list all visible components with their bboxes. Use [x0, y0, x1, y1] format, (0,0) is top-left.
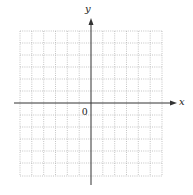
origin-label: 0 — [82, 106, 88, 117]
x-axis — [14, 101, 177, 106]
y-axis-arrow-icon — [89, 18, 94, 25]
x-axis-label: x — [179, 97, 185, 107]
y-axis-label: y — [85, 4, 91, 14]
grid-svg — [0, 0, 193, 195]
coordinate-plane: y x 0 — [0, 0, 193, 195]
x-axis-arrow-icon — [170, 101, 177, 106]
